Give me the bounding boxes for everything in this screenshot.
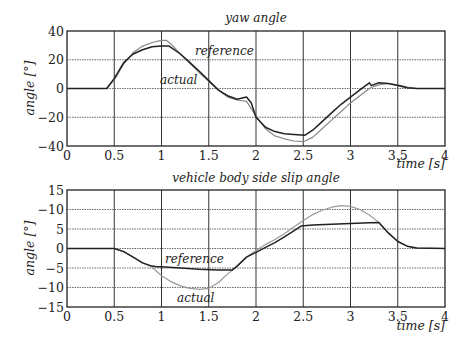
annotation-reference: reference <box>195 44 254 58</box>
y-tick-label: −5 <box>46 261 64 276</box>
y-tick-label: 20 <box>48 52 64 67</box>
y-axis-label: angle [°] <box>22 60 37 115</box>
x-axis-label: time [s] <box>397 318 446 333</box>
y-axis-label: angle [°] <box>22 220 37 275</box>
y-tick-label: −40 <box>38 139 64 154</box>
x-tick-label: 2.5 <box>293 309 313 324</box>
y-tick-label: −10 <box>38 280 64 295</box>
y-tick-label: 5 <box>56 222 64 237</box>
grid <box>67 190 445 307</box>
yaw-angle-plot: 00.511.522.533.5440200−20−40 yaw angle a… <box>22 11 449 171</box>
x-tick-label: 3 <box>347 309 355 324</box>
x-tick-label: 2 <box>252 148 260 163</box>
plot-title: yaw angle <box>224 11 287 25</box>
x-tick-label: 2.5 <box>293 148 313 163</box>
x-tick-label: 0 <box>63 148 71 163</box>
annotation-actual: actual <box>160 73 198 87</box>
x-tick-label: 1 <box>158 309 166 324</box>
tick-labels: 00.511.522.533.5415−1050−5−10−15 <box>38 183 449 325</box>
x-tick-label: 2 <box>252 309 260 324</box>
y-tick-label: −15 <box>38 300 64 315</box>
y-tick-label: −20 <box>38 110 64 125</box>
x-tick-label: 0.5 <box>104 309 124 324</box>
grid <box>67 31 445 146</box>
y-tick-label: 0 <box>56 241 64 256</box>
y-tick-label: 40 <box>48 24 64 39</box>
annotation-reference: reference <box>165 252 224 266</box>
plot-title: vehicle body side slip angle <box>172 171 340 185</box>
y-tick-label: 0 <box>56 81 64 96</box>
x-tick-label: 3 <box>347 148 355 163</box>
x-tick-label: 1 <box>158 148 166 163</box>
x-axis-label: time [s] <box>397 156 446 171</box>
chart-figure: 00.511.522.533.5440200−20−40 yaw angle a… <box>0 0 465 351</box>
x-tick-label: 0 <box>63 309 71 324</box>
x-tick-label: 1.5 <box>199 148 219 163</box>
y-tick-label: 15 <box>48 183 64 198</box>
y-tick-label: −10 <box>38 202 64 217</box>
x-tick-label: 1.5 <box>199 309 219 324</box>
annotation-actual: actual <box>177 291 215 305</box>
x-tick-label: 0.5 <box>104 148 124 163</box>
side-slip-angle-plot: 00.511.522.533.5415−1050−5−10−15 vehicle… <box>22 171 449 333</box>
